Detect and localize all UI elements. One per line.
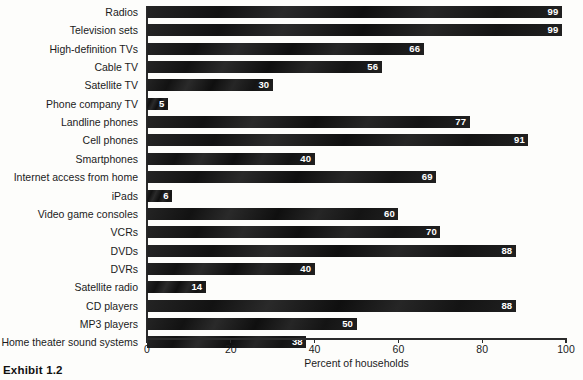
x-axis-title: Percent of households	[147, 357, 566, 369]
category-label: Landline phones	[0, 116, 142, 128]
bar-row: 30	[147, 79, 566, 91]
bar-row: 99	[147, 6, 566, 18]
category-label: Television sets	[0, 24, 142, 36]
category-label: Satellite TV	[0, 79, 142, 91]
bar-row: 14	[147, 281, 566, 293]
bar-row: 70	[147, 226, 566, 238]
bar-row: 99	[147, 24, 566, 36]
bar-row: 5	[147, 98, 566, 110]
x-tick-label: 60	[393, 343, 405, 355]
bar-value-label: 70	[147, 226, 440, 238]
x-tick-label: 80	[476, 343, 488, 355]
bar-row: 66	[147, 43, 566, 55]
category-label: Smartphones	[0, 153, 142, 165]
bar-value-label: 77	[147, 116, 470, 128]
bar-value-label: 69	[147, 171, 436, 183]
bar-value-label: 6	[147, 190, 172, 202]
category-label: MP3 players	[0, 318, 142, 330]
bar-row: 77	[147, 116, 566, 128]
category-label: VCRs	[0, 226, 142, 238]
bar-value-label: 14	[147, 281, 206, 293]
bar-row: 60	[147, 208, 566, 220]
bar-value-label: 56	[147, 61, 382, 73]
bar-row: 69	[147, 171, 566, 183]
category-label: Cable TV	[0, 61, 142, 73]
category-label: DVDs	[0, 245, 142, 257]
x-axis-line	[146, 338, 567, 340]
bar-row: 50	[147, 318, 566, 330]
bar-row: 88	[147, 300, 566, 312]
bar-value-label: 40	[147, 263, 315, 275]
x-tick-label: 100	[557, 343, 575, 355]
category-label: Home theater sound systems	[0, 336, 142, 348]
bar-value-label: 50	[147, 318, 357, 330]
bar-row: 88	[147, 245, 566, 257]
category-label: Cell phones	[0, 134, 142, 146]
bar-value-label: 88	[147, 245, 516, 257]
category-label: High-definition TVs	[0, 43, 142, 55]
bar-value-label: 60	[147, 208, 398, 220]
category-label: iPads	[0, 190, 142, 202]
bar-value-label: 88	[147, 300, 516, 312]
category-label: Phone company TV	[0, 98, 142, 110]
category-label: Radios	[0, 6, 142, 18]
bar-value-label: 40	[147, 153, 315, 165]
bar-row: 56	[147, 61, 566, 73]
bar-value-label: 66	[147, 43, 424, 55]
bar-chart: RadiosTelevision setsHigh-definition TVs…	[0, 0, 583, 380]
bar-row: 40	[147, 153, 566, 165]
bar-value-label: 99	[147, 6, 562, 18]
category-label: Video game consoles	[0, 208, 142, 220]
x-tick-label: 20	[225, 343, 237, 355]
x-tick-label: 40	[309, 343, 321, 355]
bar-value-label: 5	[147, 98, 168, 110]
category-label: Internet access from home	[0, 171, 142, 183]
category-label: Satellite radio	[0, 281, 142, 293]
plot-area: 999966563057791406966070884014885038	[147, 6, 566, 338]
category-axis-labels: RadiosTelevision setsHigh-definition TVs…	[0, 6, 142, 339]
x-tick-label: 0	[144, 343, 150, 355]
bar-value-label: 91	[147, 134, 528, 146]
bar-row: 40	[147, 263, 566, 275]
bar-value-label: 99	[147, 24, 562, 36]
bar-row: 91	[147, 134, 566, 146]
bar-value-label: 30	[147, 79, 273, 91]
bar-row: 6	[147, 190, 566, 202]
exhibit-caption: Exhibit 1.2	[3, 364, 63, 376]
category-label: CD players	[0, 300, 142, 312]
category-label: DVRs	[0, 263, 142, 275]
